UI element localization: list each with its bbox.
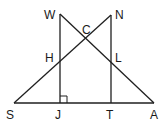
label-a: A xyxy=(150,108,158,122)
label-w: W xyxy=(44,8,56,22)
label-t: T xyxy=(106,108,114,122)
segment-wa xyxy=(60,14,154,103)
label-n: N xyxy=(115,8,124,22)
label-s: S xyxy=(6,108,14,122)
label-j: J xyxy=(55,108,61,122)
geometry-diagram: W N C H L S J T A xyxy=(0,0,163,125)
label-l: L xyxy=(115,51,122,65)
label-h: H xyxy=(45,51,54,65)
label-c: C xyxy=(82,23,91,37)
right-angle-marker xyxy=(60,96,67,103)
segment-sn xyxy=(14,15,111,103)
